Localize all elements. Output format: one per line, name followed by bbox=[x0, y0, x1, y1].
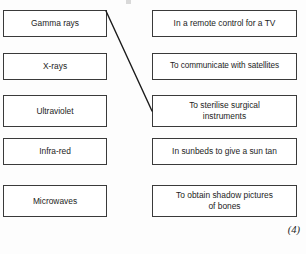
left-option-label: X-rays bbox=[41, 61, 69, 72]
matching-exercise: Gamma rays X-rays Ultraviolet Infra-red … bbox=[0, 0, 306, 254]
right-option-label: In a remote control for a TV bbox=[172, 18, 278, 29]
left-option-label: Ultraviolet bbox=[34, 106, 75, 117]
right-option-sterilise[interactable]: To sterilise surgical instruments bbox=[152, 95, 297, 127]
left-option-gamma-rays[interactable]: Gamma rays bbox=[3, 10, 107, 37]
marks-allocation: (4) bbox=[288, 224, 300, 235]
right-option-label: To sterilise surgical instruments bbox=[187, 100, 262, 122]
right-option-label: In sunbeds to give a sun tan bbox=[170, 146, 279, 157]
right-option-shadow-pictures[interactable]: To obtain shadow pictures of bones bbox=[152, 185, 297, 217]
left-option-label: Infra-red bbox=[37, 146, 73, 157]
left-option-x-rays[interactable]: X-rays bbox=[3, 53, 107, 80]
left-option-microwaves[interactable]: Microwaves bbox=[3, 185, 107, 217]
match-line-gamma-to-sterilise bbox=[106, 11, 152, 111]
scan-artifact bbox=[126, 0, 131, 4]
right-option-label: To obtain shadow pictures of bones bbox=[174, 190, 275, 212]
right-option-remote-control[interactable]: In a remote control for a TV bbox=[152, 10, 297, 37]
right-option-sunbeds[interactable]: In sunbeds to give a sun tan bbox=[152, 138, 297, 165]
right-option-label: To communicate with satellites bbox=[168, 61, 281, 72]
left-option-ultraviolet[interactable]: Ultraviolet bbox=[3, 95, 107, 127]
left-option-label: Microwaves bbox=[31, 196, 79, 207]
left-option-infra-red[interactable]: Infra-red bbox=[3, 138, 107, 165]
right-option-satellites[interactable]: To communicate with satellites bbox=[152, 53, 297, 80]
left-option-label: Gamma rays bbox=[29, 18, 81, 29]
